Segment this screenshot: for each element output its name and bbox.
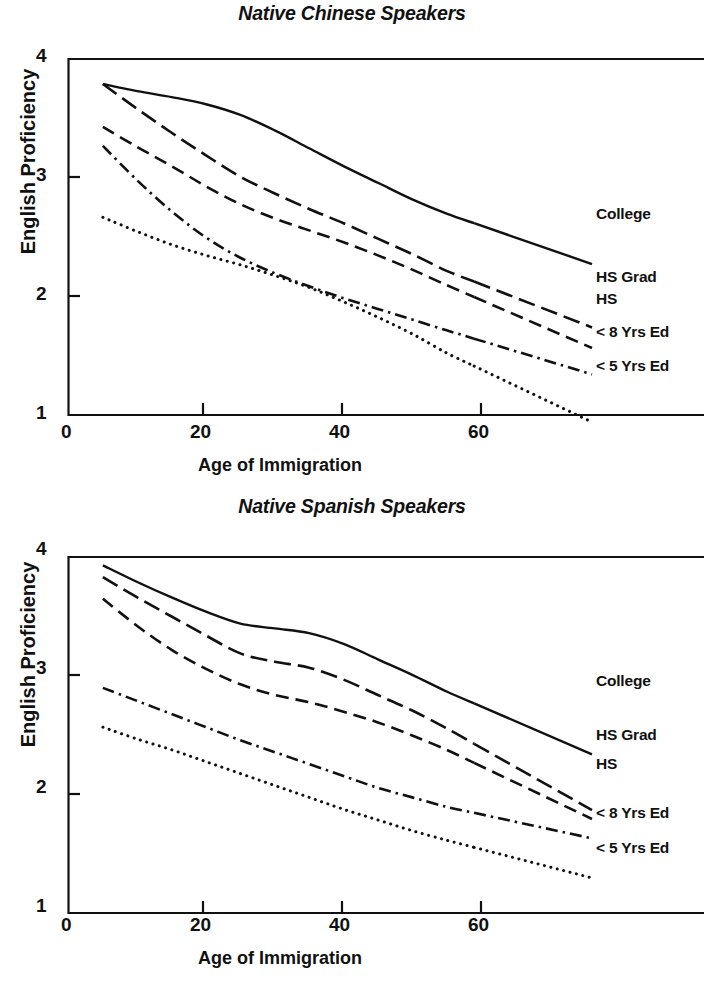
series-path-hs	[103, 599, 474, 763]
series-path-college	[103, 565, 474, 703]
plot-area-chinese	[0, 0, 704, 493]
series-path-lt8	[103, 146, 474, 339]
chart-native-spanish-speakers: Native Spanish Speakers English Proficie…	[0, 493, 704, 986]
series-path-college	[103, 84, 474, 223]
series-path-lt5	[103, 217, 474, 366]
label-leader-group	[474, 703, 592, 878]
leader-college	[474, 703, 592, 754]
leader-hs-grad	[474, 282, 592, 328]
label-leader-group	[474, 223, 592, 422]
chart-native-chinese-speakers: Native Chinese Speakers English Proficie…	[0, 0, 704, 493]
series-path-hs-grad	[103, 577, 474, 744]
leader-lt8	[474, 339, 592, 375]
leader-lt5	[474, 366, 592, 422]
leader-lt8	[474, 813, 592, 839]
leader-college	[474, 223, 592, 264]
plot-area-spanish	[0, 493, 704, 986]
series-group	[103, 84, 474, 366]
series-group	[103, 565, 474, 847]
series-path-lt5	[103, 727, 474, 847]
series-path-hs-grad	[103, 84, 474, 282]
series-path-hs	[103, 127, 474, 297]
leader-lt5	[474, 847, 592, 878]
leader-hs	[474, 763, 592, 819]
series-path-lt8	[103, 688, 474, 813]
leader-hs-grad	[474, 744, 592, 810]
